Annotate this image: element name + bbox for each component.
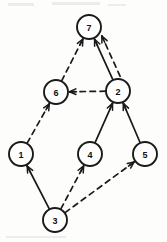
arrowhead-2-to-7 bbox=[95, 39, 100, 46]
node-label-4: 4 bbox=[87, 150, 92, 160]
node-label-2: 2 bbox=[115, 87, 120, 97]
arrowhead-2-to-7 bbox=[102, 36, 107, 43]
node-2[interactable]: 2 bbox=[106, 79, 130, 103]
node-3[interactable]: 3 bbox=[43, 208, 67, 232]
node-label-6: 6 bbox=[53, 88, 58, 98]
node-4[interactable]: 4 bbox=[78, 142, 102, 166]
node-1[interactable]: 1 bbox=[9, 142, 33, 166]
arrowhead-1-to-6 bbox=[44, 104, 50, 111]
edge-layer bbox=[27, 36, 140, 213]
node-label-5: 5 bbox=[142, 150, 147, 160]
arrowhead-3-to-5 bbox=[127, 162, 134, 168]
directed-graph: 1234567 bbox=[0, 0, 167, 242]
node-5[interactable]: 5 bbox=[133, 142, 157, 166]
edge-3-to-5 bbox=[65, 162, 134, 213]
node-label-3: 3 bbox=[52, 216, 57, 226]
arrowhead-5-to-2 bbox=[123, 103, 128, 110]
node-label-1: 1 bbox=[18, 150, 23, 160]
arrowhead-2-to-6 bbox=[70, 89, 77, 95]
arrowhead-4-to-2 bbox=[107, 103, 112, 110]
node-6[interactable]: 6 bbox=[44, 80, 68, 104]
node-label-7: 7 bbox=[86, 23, 91, 33]
diagram-canvas: 1234567 bbox=[0, 0, 167, 242]
arrow-barb bbox=[49, 104, 50, 111]
node-7[interactable]: 7 bbox=[77, 15, 101, 39]
